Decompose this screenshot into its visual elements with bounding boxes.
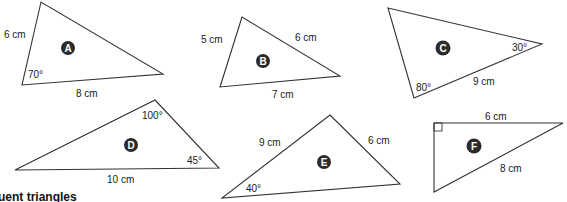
angle-label: 45°: [187, 155, 202, 166]
angle-label: 100°: [142, 110, 163, 121]
triangles-diagram: A 6 cm 8 cm 70° B 5 cm 6 cm 7 cm C 30° 8…: [0, 0, 567, 202]
badge-b-label: B: [259, 56, 266, 67]
angle-label: 70°: [28, 69, 43, 80]
side-label: 6 cm: [4, 29, 26, 40]
side-label: 9 cm: [473, 76, 495, 87]
triangle-a: A 6 cm 8 cm 70°: [4, 2, 163, 99]
section-heading: gruent triangles: [0, 190, 77, 202]
side-label: 9 cm: [259, 137, 281, 148]
badge-d-label: D: [127, 140, 134, 151]
side-label: 5 cm: [201, 34, 223, 45]
side-label: 10 cm: [107, 174, 134, 185]
angle-label: 30°: [512, 42, 527, 53]
side-label: 6 cm: [368, 135, 390, 146]
side-label: 8 cm: [76, 88, 98, 99]
triangle-c: C 30° 80° 9 cm: [388, 8, 542, 98]
side-label: 6 cm: [485, 111, 507, 122]
badge-c-label: C: [439, 43, 446, 54]
side-label: 7 cm: [272, 89, 294, 100]
triangle-e: E 9 cm 6 cm 40°: [222, 115, 400, 198]
side-label: 8 cm: [500, 163, 522, 174]
triangle-b: B 5 cm 6 cm 7 cm: [201, 17, 340, 100]
side-label: 6 cm: [295, 32, 317, 43]
badge-e-label: E: [321, 157, 328, 168]
triangle-d: D 100° 45° 10 cm: [15, 100, 219, 185]
badge-f-label: F: [471, 141, 477, 152]
angle-label: 80°: [416, 82, 431, 93]
badge-a-label: A: [64, 43, 71, 54]
right-angle-marker: [434, 123, 442, 131]
triangle-f: F 6 cm 8 cm: [434, 111, 563, 192]
angle-label: 40°: [246, 183, 261, 194]
